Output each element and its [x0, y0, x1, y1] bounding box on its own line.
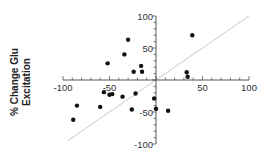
data-point	[140, 69, 144, 73]
data-point	[154, 107, 158, 111]
y-tick-label: 50	[142, 43, 153, 54]
data-point	[75, 103, 79, 107]
data-points	[71, 33, 194, 122]
data-point	[185, 75, 189, 79]
data-point	[166, 109, 170, 113]
data-point	[139, 64, 143, 68]
data-point	[126, 37, 130, 41]
x-tick-label: 100	[241, 82, 257, 93]
data-point	[133, 91, 137, 95]
x-tick-label: -100	[53, 82, 72, 93]
data-point	[110, 92, 114, 96]
data-point	[130, 107, 134, 111]
x-tick-label: 50	[197, 82, 208, 93]
data-point	[184, 70, 188, 74]
data-point	[102, 90, 106, 94]
data-point	[105, 61, 109, 65]
y-tick-label: -50	[139, 107, 153, 118]
data-point	[122, 52, 126, 56]
data-point	[131, 69, 135, 73]
identity-reference-line	[68, 16, 249, 141]
data-point	[152, 96, 156, 100]
data-point	[190, 33, 194, 37]
data-point	[120, 94, 124, 98]
y-tick-label: -100	[134, 139, 153, 150]
data-point	[71, 117, 75, 121]
scatter-plot: -100-505010010050-50-100	[0, 0, 271, 155]
data-point	[98, 105, 102, 109]
y-tick-label: 100	[137, 11, 153, 22]
